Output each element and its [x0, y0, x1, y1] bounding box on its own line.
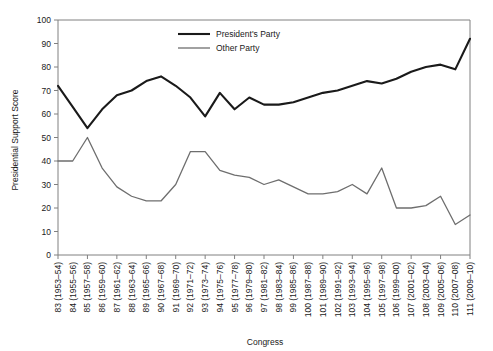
y-axis-title: Presidential Support Score	[10, 89, 20, 190]
y-tick-label: 50	[42, 133, 52, 143]
x-tick-label: 105 (1997–98)	[377, 262, 387, 317]
y-tick-label: 90	[42, 39, 52, 49]
x-tick-label: 83 (1953–54)	[53, 262, 63, 313]
x-tick-label: 107 (2001–02)	[406, 262, 416, 317]
x-tick-label: 85 (1957–58)	[82, 262, 92, 313]
x-tick-label: 89 (1965–66)	[141, 262, 151, 313]
chart-canvas: 0102030405060708090100 83 (1953–54)84 (1…	[0, 0, 493, 351]
x-tick-label: 98 (1983–84)	[274, 262, 284, 313]
y-tick-label: 80	[42, 62, 52, 72]
x-tick-label: 109 (2005–06)	[436, 262, 446, 317]
x-axis-ticks: 83 (1953–54)84 (1955–56)85 (1957–58)86 (…	[53, 255, 475, 317]
chart-axes	[58, 20, 470, 255]
x-tick-label: 93 (1973–74)	[200, 262, 210, 313]
presidential-support-line-chart: 0102030405060708090100 83 (1953–54)84 (1…	[0, 0, 493, 351]
x-tick-label: 97 (1981–82)	[259, 262, 269, 313]
x-tick-label: 88 (1963–64)	[127, 262, 137, 313]
x-axis-title: Congress	[247, 337, 283, 347]
y-tick-label: 30	[42, 180, 52, 190]
x-tick-label: 103 (1993–94)	[347, 262, 357, 317]
y-tick-label: 60	[42, 109, 52, 119]
x-tick-label: 99 (1985–86)	[288, 262, 298, 313]
chart-legend: President's PartyOther Party	[178, 29, 281, 53]
x-tick-label: 96 (1979–80)	[244, 262, 254, 313]
y-tick-label: 70	[42, 86, 52, 96]
x-tick-label: 104 (1995–96)	[362, 262, 372, 317]
x-tick-label: 95 (1977–78)	[230, 262, 240, 313]
chart-series	[58, 39, 470, 225]
x-tick-label: 110 (2007–08)	[450, 262, 460, 317]
x-tick-label: 92 (1971–72)	[185, 262, 195, 313]
x-tick-label: 86 (1959–60)	[97, 262, 107, 313]
y-tick-label: 20	[42, 203, 52, 213]
x-tick-label: 108 (2003–04)	[421, 262, 431, 317]
series-line-2	[58, 138, 470, 225]
x-tick-label: 101 (1989–90)	[318, 262, 328, 317]
series-line-1	[58, 39, 470, 128]
y-tick-label: 40	[42, 156, 52, 166]
y-tick-label: 10	[42, 227, 52, 237]
y-tick-label: 0	[46, 250, 51, 260]
x-tick-label: 106 (1999–00)	[391, 262, 401, 317]
x-tick-label: 102 (1991–92)	[333, 262, 343, 317]
y-tick-label: 100	[37, 15, 51, 25]
x-tick-label: 87 (1961–62)	[112, 262, 122, 313]
y-axis-ticks: 0102030405060708090100	[37, 15, 58, 260]
x-tick-label: 91 (1969–70)	[171, 262, 181, 313]
legend-label-1: President's Party	[216, 29, 281, 39]
legend-label-2: Other Party	[216, 43, 260, 53]
x-tick-label: 90 (1967–68)	[156, 262, 166, 313]
x-tick-label: 100 (1987–88)	[303, 262, 313, 317]
x-tick-label: 84 (1955–56)	[68, 262, 78, 313]
x-tick-label: 94 (1975–76)	[215, 262, 225, 313]
x-tick-label: 111 (2009–10)	[465, 262, 475, 316]
